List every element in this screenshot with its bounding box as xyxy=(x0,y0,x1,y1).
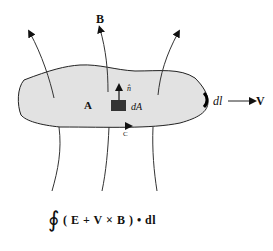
area-label-a: A xyxy=(84,100,92,111)
surface-a xyxy=(18,65,208,127)
field-line-lower-middle xyxy=(102,127,109,191)
line-element-label: dl xyxy=(213,95,222,107)
contour-integral-symbol: ∮ xyxy=(48,207,59,232)
area-element-label: dA xyxy=(131,102,142,112)
field-line-lower-right xyxy=(153,127,157,191)
velocity-label: V xyxy=(256,95,265,107)
field-label-b: B xyxy=(96,13,104,25)
area-element-square xyxy=(111,100,126,111)
formula: ∮ ( E + V × B ) • dl xyxy=(48,209,156,231)
contour-label: C xyxy=(123,131,128,138)
formula-expression: ( E + V × B ) • dl xyxy=(63,213,156,227)
field-line-lower-left xyxy=(52,127,60,191)
normal-label: n̂ xyxy=(127,85,131,93)
